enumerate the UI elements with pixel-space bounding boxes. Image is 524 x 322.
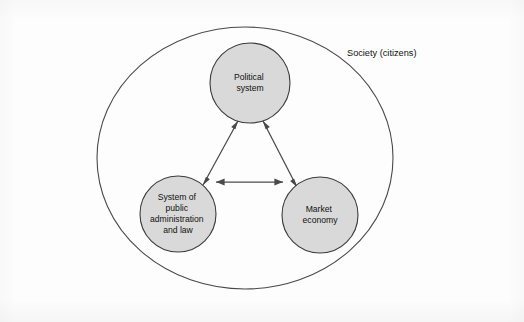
connector-political-market <box>263 121 297 187</box>
node-public-administration[interactable]: System of public administration and law <box>140 176 216 252</box>
node-market-economy[interactable]: Market economy <box>282 177 358 253</box>
society-diagram: Political system System of public admini… <box>0 0 524 322</box>
society-boundary-label: Society (citizens) <box>347 48 416 58</box>
political-system-label: Political system <box>234 72 266 93</box>
node-political-system[interactable]: Political system <box>210 43 290 123</box>
connector-admin-market <box>216 179 283 186</box>
connector-admin-political <box>203 121 238 185</box>
market-economy-label: Market economy <box>303 204 339 225</box>
diagram-canvas: Political system System of public admini… <box>0 0 524 322</box>
